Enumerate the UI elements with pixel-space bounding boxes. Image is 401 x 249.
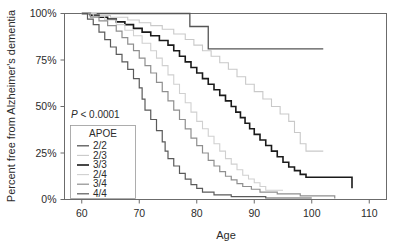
y-tick-label: 0% — [41, 193, 56, 205]
y-tick-label: 25% — [35, 147, 56, 159]
y-tick-label: 75% — [35, 54, 56, 66]
y-tick-label: 50% — [35, 100, 56, 112]
x-tick-label: 110 — [361, 207, 378, 219]
legend: APOE 2/22/33/32/43/44/4 — [71, 126, 136, 200]
y-tick-label: 100% — [30, 7, 57, 19]
p-value-text: < 0.0001 — [78, 109, 120, 120]
survival-chart-figure: 0%25%50%75%100% 60708090100110 Percent f… — [0, 0, 401, 249]
y-axis-title: Percent free from Alzheimer's dementia — [5, 9, 17, 202]
x-tick-label: 70 — [133, 207, 145, 219]
kaplan-meier-chart: 0%25%50%75%100% 60708090100110 Percent f… — [0, 0, 401, 249]
x-tick-label: 100 — [303, 207, 321, 219]
legend-label-4-4: 4/4 — [93, 188, 107, 199]
x-axis-title: Age — [216, 229, 236, 241]
legend-title: APOE — [89, 128, 117, 139]
p-value-annotation: P < 0.0001 — [71, 109, 120, 120]
x-tick-label: 80 — [191, 207, 203, 219]
x-tick-label: 60 — [76, 207, 88, 219]
x-tick-label: 90 — [248, 207, 260, 219]
